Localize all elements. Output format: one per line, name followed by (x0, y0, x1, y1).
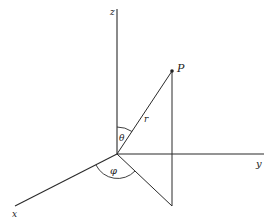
phi-label: φ (110, 165, 117, 176)
x-axis (15, 154, 117, 206)
projection-xy-line (117, 154, 172, 206)
point-p-marker (170, 69, 174, 73)
theta-arc (117, 127, 132, 132)
x-axis-label: x (12, 209, 17, 219)
radius-vector (117, 71, 172, 154)
spherical-coordinates-diagram: z y x P r θ φ (0, 0, 275, 222)
theta-label: θ (119, 133, 125, 143)
radius-label: r (144, 114, 149, 124)
z-axis-label: z (109, 7, 115, 17)
y-axis-label: y (255, 158, 262, 169)
point-p-label: P (176, 62, 185, 75)
